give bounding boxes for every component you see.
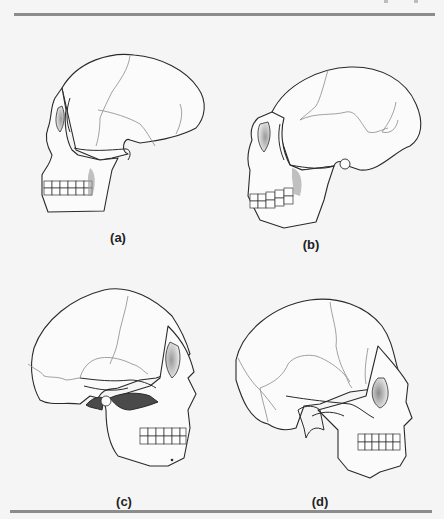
- teeth-c: [140, 428, 186, 444]
- skull-a-illustration: [0, 0, 222, 250]
- panel-label-a: (a): [110, 230, 126, 245]
- panel-label-d: (d): [312, 494, 329, 509]
- skull-panel-d: (d): [220, 260, 444, 510]
- teeth-d: [358, 434, 400, 450]
- teeth-a: [44, 181, 92, 195]
- panel-label-b: (b): [303, 237, 320, 252]
- skull-d-illustration: [220, 260, 444, 510]
- bottom-rule: [10, 510, 432, 513]
- skull-panel-a: (a): [0, 0, 222, 250]
- skull-panel-b: (b): [220, 0, 444, 250]
- skull-panel-c: (c): [0, 260, 222, 510]
- skull-b-illustration: [220, 0, 444, 250]
- skull-c-illustration: [0, 260, 222, 510]
- panel-label-c: (c): [116, 494, 132, 509]
